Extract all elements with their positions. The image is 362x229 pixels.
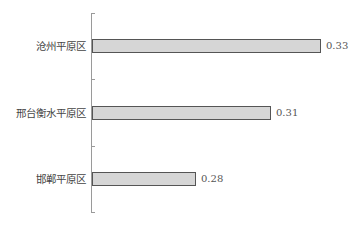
axis-tick [91, 79, 95, 80]
category-label: 沧州平原区 [36, 39, 86, 53]
bar-cangzhou [92, 39, 321, 53]
axis-tick [91, 212, 95, 213]
value-label: 0.31 [276, 106, 298, 120]
value-label: 0.28 [201, 172, 223, 186]
category-label: 邯郸平原区 [36, 172, 86, 186]
value-label: 0.33 [326, 39, 348, 53]
axis-tick [91, 13, 95, 14]
category-label: 邢台衡水平原区 [16, 106, 86, 120]
axis-tick [91, 146, 95, 147]
bar-xingtai-hengshui [92, 106, 271, 120]
bar-handan [92, 172, 196, 186]
